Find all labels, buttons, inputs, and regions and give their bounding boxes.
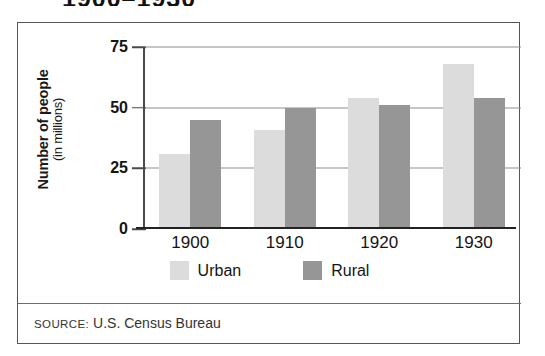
legend-item-rural: Rural bbox=[303, 261, 369, 280]
bar-urban-1910 bbox=[254, 130, 285, 229]
y-axis-title: Number of people (in millions) bbox=[36, 39, 65, 219]
x-axis-tick-labels: 1900191019201930 bbox=[143, 233, 521, 263]
legend-item-urban: Urban bbox=[170, 261, 242, 280]
x-tick-label: 1930 bbox=[439, 233, 509, 253]
bar-rural-1910 bbox=[285, 108, 316, 229]
y-tick-label: 25 bbox=[96, 159, 128, 177]
y-tick-label: 50 bbox=[96, 99, 128, 117]
bar-rural-1900 bbox=[190, 120, 221, 229]
bar-rural-1930 bbox=[474, 98, 505, 229]
bar-rural-1920 bbox=[379, 105, 410, 229]
bar-urban-1930 bbox=[443, 64, 474, 229]
x-tick-label: 1910 bbox=[250, 233, 320, 253]
legend-swatch-icon bbox=[170, 261, 189, 280]
chart-legend: UrbanRural bbox=[18, 261, 521, 280]
bars-layer bbox=[143, 23, 521, 248]
y-axis-title-main: Number of people bbox=[36, 39, 51, 219]
x-axis-line bbox=[136, 227, 516, 229]
source-note: SOURCE: U.S. Census Bureau bbox=[34, 315, 221, 331]
y-axis-tick-labels: 0255075 bbox=[96, 23, 128, 248]
chart-title-clipped: 1900–1930 bbox=[62, 0, 196, 6]
y-axis-title-sub: (in millions) bbox=[51, 39, 65, 219]
x-tick-label: 1920 bbox=[344, 233, 414, 253]
source-label: SOURCE: bbox=[34, 318, 89, 330]
legend-label: Urban bbox=[198, 262, 242, 280]
bar-urban-1920 bbox=[348, 98, 379, 229]
legend-label: Rural bbox=[331, 262, 369, 280]
source-divider bbox=[18, 303, 521, 304]
y-tick-label: 75 bbox=[96, 38, 128, 56]
source-value: U.S. Census Bureau bbox=[93, 315, 221, 331]
plot-area: Number of people (in millions) 0255075 1… bbox=[18, 23, 521, 248]
bar-urban-1900 bbox=[159, 154, 190, 229]
y-tick-label: 0 bbox=[96, 220, 128, 238]
chart-frame: Number of people (in millions) 0255075 1… bbox=[17, 22, 520, 344]
x-tick-label: 1900 bbox=[155, 233, 225, 253]
legend-swatch-icon bbox=[303, 261, 322, 280]
